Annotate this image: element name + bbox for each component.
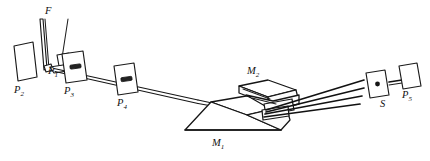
label-p4: P4 (117, 98, 127, 111)
plate-p4 (114, 63, 138, 95)
label-p3: P3 (64, 86, 74, 99)
label-f: F (45, 6, 52, 19)
plate-p5 (399, 63, 421, 89)
label-p5: P5 (402, 90, 412, 103)
optical-diagram-figure: F P1 P2 P3 P4 M1 M2 S P5 (0, 0, 430, 161)
slit-s (366, 70, 402, 98)
label-p2: P2 (14, 85, 24, 98)
plate-p3 (62, 51, 87, 83)
label-m2: M2 (247, 66, 259, 79)
label-p1: P1 (48, 66, 58, 79)
label-s: S (380, 99, 385, 112)
label-m1: M1 (212, 138, 224, 151)
plate-p2 (14, 42, 37, 81)
